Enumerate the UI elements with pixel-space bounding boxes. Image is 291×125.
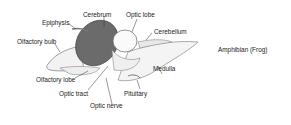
- optic-lobe-shape: [113, 30, 137, 52]
- label-medulla: Medulla: [153, 66, 175, 72]
- label-optic-nerve: Optic nerve: [90, 103, 123, 109]
- label-cerebrum: Cerebrum: [83, 12, 111, 18]
- label-olfactory-lobe: Olfactory lobe: [36, 77, 75, 83]
- label-epiphysis: Epiphysis: [42, 20, 69, 26]
- label-pituitary: Pituitary: [124, 91, 147, 97]
- label-olfactory-bulb: Olfactory bulb: [17, 39, 56, 45]
- label-optic-tract: Optic tract: [59, 91, 88, 97]
- diagram-title: Amphibian (Frog): [218, 46, 267, 53]
- label-optic-lobe: Optic lobe: [126, 12, 155, 18]
- olfactory-lobe-shape: [60, 67, 100, 75]
- label-cerebellum: Cerebellum: [154, 29, 187, 35]
